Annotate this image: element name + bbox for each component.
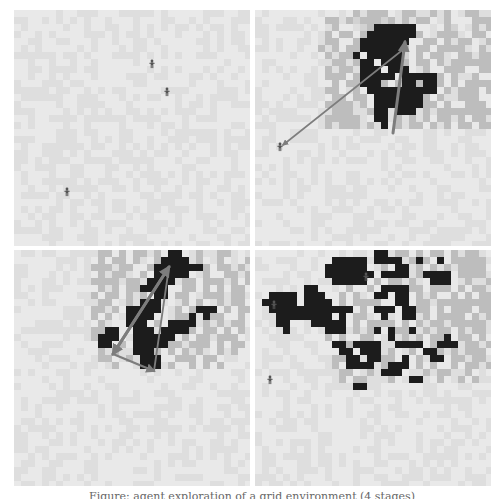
grid-cell [56, 213, 63, 220]
grid-cell [189, 10, 196, 17]
grid-cell [77, 376, 84, 383]
grid-cell [479, 453, 486, 460]
grid-cell [42, 206, 49, 213]
grid-cell [332, 390, 339, 397]
grid-cell [458, 122, 465, 129]
grid-cell [14, 171, 21, 178]
grid-cell [77, 278, 84, 285]
grid-cell [416, 460, 423, 467]
grid-cell [353, 115, 360, 122]
grid-cell [262, 432, 269, 439]
grid-cell [388, 453, 395, 460]
grid-cell [430, 213, 437, 220]
grid-cell [238, 264, 245, 271]
grid-cell [70, 376, 77, 383]
grid-cell [318, 306, 325, 313]
grid-cell [245, 418, 250, 425]
grid-cell [168, 10, 175, 17]
grid-cell [423, 185, 430, 192]
grid-cell [63, 432, 70, 439]
grid-cell [98, 292, 105, 299]
grid-cell [332, 199, 339, 206]
grid-cell [283, 320, 290, 327]
grid-cell [133, 341, 140, 348]
grid-cell [119, 129, 126, 136]
grid-cell [374, 306, 381, 313]
grid-cell [304, 192, 311, 199]
grid-cell [339, 313, 346, 320]
grid-cell [147, 115, 154, 122]
grid-cell [98, 439, 105, 446]
grid-cell [154, 418, 161, 425]
grid-cell [423, 439, 430, 446]
grid-cell [35, 411, 42, 418]
grid-cell [147, 17, 154, 24]
grid-cell [430, 185, 437, 192]
grid-cell [472, 425, 479, 432]
grid-cell [430, 136, 437, 143]
grid-cell [367, 327, 374, 334]
grid-cell [182, 446, 189, 453]
grid-cell [203, 327, 210, 334]
grid-cell [28, 94, 35, 101]
grid-cell [297, 418, 304, 425]
grid-cell [374, 257, 381, 264]
grid-cell [332, 362, 339, 369]
grid-cell [49, 45, 56, 52]
grid-cell [262, 227, 269, 234]
grid-cell [77, 306, 84, 313]
grid-cell [224, 150, 231, 157]
grid-cell [42, 313, 49, 320]
grid-cell [437, 192, 444, 199]
grid-cell [325, 150, 332, 157]
grid-cell [360, 390, 367, 397]
grid-cell [168, 52, 175, 59]
grid-cell [56, 150, 63, 157]
grid-cell [458, 136, 465, 143]
grid-cell [458, 164, 465, 171]
grid-cell [262, 115, 269, 122]
grid-cell [105, 38, 112, 45]
grid-cell [437, 17, 444, 24]
grid-cell [161, 348, 168, 355]
grid-cell [374, 45, 381, 52]
grid-cell [119, 418, 126, 425]
grid-cell [182, 24, 189, 31]
grid-cell [77, 418, 84, 425]
grid-cell [196, 10, 203, 17]
grid-cell [98, 306, 105, 313]
grid-cell [486, 10, 491, 17]
grid-cell [430, 66, 437, 73]
grid-cell [182, 313, 189, 320]
grid-cell [311, 313, 318, 320]
grid-cell [479, 206, 486, 213]
grid-cell [203, 52, 210, 59]
grid-cell [472, 185, 479, 192]
grid-cell [175, 355, 182, 362]
grid-cell [77, 285, 84, 292]
grid-cell [210, 334, 217, 341]
grid-cell [238, 59, 245, 66]
grid-cell [367, 220, 374, 227]
grid-cell [126, 439, 133, 446]
grid-cell [217, 199, 224, 206]
grid-cell [217, 404, 224, 411]
grid-cell [451, 341, 458, 348]
grid-cell [430, 432, 437, 439]
grid-cell [276, 383, 283, 390]
grid-cell [28, 474, 35, 481]
grid-cell [353, 10, 360, 17]
grid-cell [126, 425, 133, 432]
grid-cell [332, 285, 339, 292]
grid-cell [196, 185, 203, 192]
grid-cell [105, 411, 112, 418]
grid-cell [140, 206, 147, 213]
grid-cell [304, 178, 311, 185]
grid-cell [255, 206, 262, 213]
grid-cell [409, 157, 416, 164]
grid-cell [458, 178, 465, 185]
grid-cell [437, 264, 444, 271]
grid-cell [196, 45, 203, 52]
grid-cell [196, 150, 203, 157]
grid-cell [119, 474, 126, 481]
